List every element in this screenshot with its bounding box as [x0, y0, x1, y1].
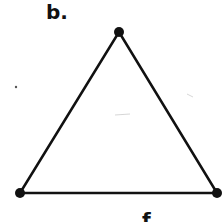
triangle-edges	[20, 32, 217, 193]
faint-mark	[187, 94, 193, 97]
faint-mark	[115, 114, 130, 115]
vertex-top	[114, 27, 124, 37]
partial-label-bottom: f	[142, 210, 151, 222]
triangle-diagram	[0, 0, 224, 222]
speck	[15, 86, 17, 88]
diagram-canvas: b. f	[0, 0, 224, 222]
vertex-bottom-left	[15, 188, 25, 198]
vertex-bottom-right	[212, 188, 222, 198]
